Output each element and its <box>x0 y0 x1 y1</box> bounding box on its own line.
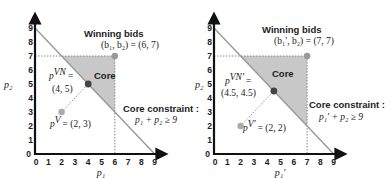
svg-text:4: 4 <box>265 157 270 167</box>
svg-text:1: 1 <box>207 135 212 145</box>
constraint-expr: p₁′ + p₂ ≥ 9 <box>318 112 363 122</box>
svg-text:4: 4 <box>207 93 212 103</box>
svg-text:6: 6 <box>112 157 117 167</box>
svg-text:7: 7 <box>207 51 212 61</box>
svg-text:9: 9 <box>331 157 336 167</box>
right-diagram: 0 1 2 3 4 5 6 7 8 9 0 1 2 3 4 5 6 7 8 9 … <box>194 18 385 178</box>
constraint-title: Core constraint : <box>123 103 199 114</box>
svg-text:2: 2 <box>238 157 243 167</box>
core-label: Core <box>94 70 116 81</box>
svg-text:1: 1 <box>28 135 33 145</box>
svg-text:7: 7 <box>305 157 310 167</box>
svg-text:6: 6 <box>28 65 33 75</box>
svg-text:3: 3 <box>73 157 78 167</box>
svg-text:6: 6 <box>291 157 296 167</box>
svg-text:9: 9 <box>28 23 33 33</box>
svg-text:1: 1 <box>46 157 51 167</box>
pvn-value: (4, 5) <box>52 84 73 95</box>
pvn-label: pVN= <box>48 67 73 81</box>
pvn-label: pVN′= <box>224 72 251 86</box>
svg-text:1: 1 <box>225 157 230 167</box>
winning-bids-title: Winning bids <box>262 24 322 35</box>
x-axis-label: p₁ <box>96 167 105 178</box>
svg-text:2: 2 <box>207 121 212 131</box>
y-tick-labels: 0 1 2 3 4 5 6 7 8 9 <box>26 23 33 159</box>
svg-text:9: 9 <box>207 23 212 33</box>
svg-text:7: 7 <box>126 157 131 167</box>
svg-text:5: 5 <box>278 157 283 167</box>
svg-text:6: 6 <box>207 65 212 75</box>
pvn-point <box>270 88 277 95</box>
pv-label: pV= (2, 3) <box>49 115 91 130</box>
svg-text:9: 9 <box>152 157 157 167</box>
svg-text:3: 3 <box>28 107 33 117</box>
winning-bids-point <box>304 53 310 59</box>
winning-bids-value: (b₁′, b₂) = (7, 7) <box>274 36 334 47</box>
core-diagrams: 0 1 2 3 4 5 6 7 8 9 0 1 2 3 4 5 6 7 8 9 … <box>0 0 390 179</box>
svg-text:0: 0 <box>205 149 210 159</box>
svg-text:3: 3 <box>207 107 212 117</box>
y-axis-label: p₂ <box>194 79 204 90</box>
core-label: Core <box>272 68 294 79</box>
svg-text:8: 8 <box>318 157 323 167</box>
constraint-title: Core constraint : <box>309 99 385 110</box>
pv-label: pV′= (2, 2) <box>242 119 286 134</box>
x-axis-label: p₁′ <box>274 167 286 178</box>
svg-text:5: 5 <box>99 157 104 167</box>
svg-text:5: 5 <box>28 79 33 89</box>
y-axis-label: p₂ <box>3 79 13 90</box>
svg-text:4: 4 <box>28 93 33 103</box>
svg-text:0: 0 <box>26 149 31 159</box>
left-diagram: 0 1 2 3 4 5 6 7 8 9 0 1 2 3 4 5 6 7 8 9 … <box>3 18 199 178</box>
y-tick-labels: 0 1 2 3 4 5 6 7 8 9 <box>205 23 212 159</box>
svg-text:8: 8 <box>28 37 33 47</box>
pvn-value: (4.5, 4.5) <box>221 88 256 99</box>
svg-text:5: 5 <box>207 79 212 89</box>
svg-text:0: 0 <box>34 157 39 167</box>
pvn-point <box>85 81 92 88</box>
x-tick-labels: 0 1 2 3 4 5 6 7 8 9 <box>34 157 158 167</box>
winning-bids-title: Winning bids <box>84 28 144 39</box>
svg-text:4: 4 <box>86 157 91 167</box>
constraint-expr: p₁ + p₂ ≥ 9 <box>134 115 177 125</box>
svg-text:2: 2 <box>59 157 64 167</box>
svg-text:2: 2 <box>28 121 33 131</box>
svg-text:3: 3 <box>252 157 257 167</box>
x-tick-labels: 0 1 2 3 4 5 6 7 8 9 <box>213 157 337 167</box>
svg-text:0: 0 <box>213 157 218 167</box>
svg-text:8: 8 <box>207 37 212 47</box>
winning-bids-value: (b₁, b₂) = (6, 7) <box>101 40 159 51</box>
svg-text:7: 7 <box>28 51 33 61</box>
winning-bids-point <box>112 53 118 59</box>
svg-text:8: 8 <box>139 157 144 167</box>
